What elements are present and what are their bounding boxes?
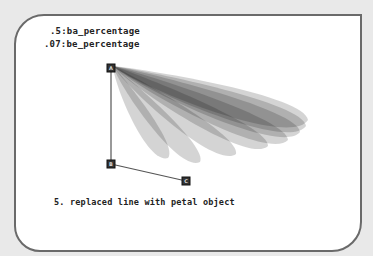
svg-text:A: A: [109, 65, 113, 71]
segment-bc: [111, 164, 186, 181]
svg-text:B: B: [109, 161, 113, 167]
caption: 5. replaced line with petal object: [54, 197, 235, 207]
point-b[interactable]: B: [107, 160, 115, 168]
svg-text:C: C: [184, 178, 188, 184]
petal-group: [113, 66, 308, 163]
point-a[interactable]: A: [107, 64, 115, 72]
point-c[interactable]: C: [182, 177, 190, 185]
drawing-canvas: A B C: [0, 0, 373, 256]
